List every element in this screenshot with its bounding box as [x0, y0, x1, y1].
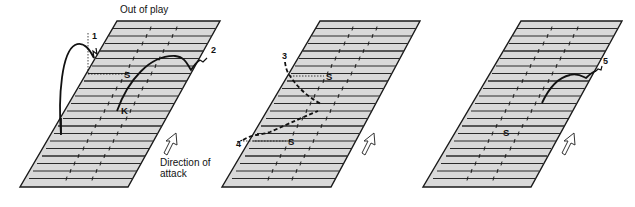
direction-arrow-icon — [362, 133, 375, 155]
out-of-play-label: Out of play — [120, 4, 168, 15]
kick-label-2: 2 — [211, 45, 216, 55]
position-marker-s-upper: S — [326, 71, 332, 82]
scrum-half-marker: S — [124, 69, 130, 80]
direction-label-line1: Direction of — [160, 157, 211, 168]
direction-label-line2: attack — [160, 168, 188, 179]
diagram-canvas: 1 2 S K Out of play Direction of attack — [0, 0, 635, 207]
kick-label-3: 3 — [282, 51, 287, 61]
field-panel-right: 5 S — [423, 21, 622, 187]
kicker-marker: K — [121, 105, 128, 116]
kick-label-1: 1 — [92, 31, 97, 41]
position-marker-s: S — [503, 127, 509, 138]
direction-arrow-icon — [562, 133, 575, 155]
kick-label-4: 4 — [236, 139, 241, 149]
field-panel-middle: 3 4 S S — [222, 21, 420, 187]
position-marker-s-lower: S — [288, 136, 294, 147]
direction-arrow-icon — [164, 133, 177, 155]
kick-label-5: 5 — [603, 56, 608, 66]
